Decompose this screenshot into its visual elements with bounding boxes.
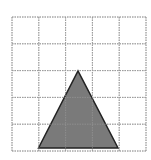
grid-diagram [0, 0, 151, 160]
shaded-triangle [39, 71, 119, 148]
